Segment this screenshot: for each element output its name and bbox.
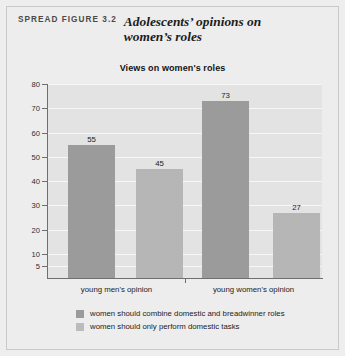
figure-title: Adolescents’ opinions on women’s roles bbox=[124, 14, 274, 44]
legend-item: women should only perform domestic tasks bbox=[76, 320, 285, 333]
y-tick-label-text: 30 bbox=[18, 201, 40, 210]
y-tick-mark bbox=[42, 133, 47, 134]
y-tick-label-text: 40 bbox=[18, 177, 40, 186]
bar-value-label: 73 bbox=[202, 91, 249, 100]
y-tick-mark bbox=[42, 254, 47, 255]
y-tick-mark bbox=[42, 84, 47, 85]
y-tick-mark bbox=[42, 108, 47, 109]
x-axis-group-divider bbox=[185, 278, 186, 283]
y-tick-label-text: 10 bbox=[18, 250, 40, 259]
x-axis-category-label: young women's opinion bbox=[185, 285, 322, 294]
chart-title: Views on women's roles bbox=[0, 63, 345, 73]
figure-root: SPREAD FIGURE 3.2 Adolescents’ opinions … bbox=[0, 0, 345, 356]
legend-item: women should combine domestic and breadw… bbox=[76, 307, 285, 320]
y-tick-label-text: 20 bbox=[18, 226, 40, 235]
y-tick-mark bbox=[42, 181, 47, 182]
legend-swatch-icon bbox=[76, 310, 84, 318]
y-tick-mark bbox=[42, 266, 47, 267]
y-tick-label-text: 80 bbox=[18, 80, 40, 89]
y-tick-label-text: 50 bbox=[18, 153, 40, 162]
gridline bbox=[48, 108, 322, 109]
y-tick-label-text: 70 bbox=[18, 104, 40, 113]
legend-label: women should only perform domestic tasks bbox=[90, 322, 240, 331]
gridline bbox=[48, 133, 322, 134]
bar-value-label: 55 bbox=[68, 135, 115, 144]
bar bbox=[273, 213, 320, 278]
bar bbox=[136, 169, 183, 278]
chart-legend: women should combine domestic and breadw… bbox=[76, 307, 285, 333]
y-axis-line bbox=[47, 84, 48, 279]
figure-kicker: SPREAD FIGURE 3.2 bbox=[18, 14, 117, 24]
gridline bbox=[48, 84, 322, 85]
plot-area: 55457327 bbox=[48, 84, 322, 278]
bar-value-label: 27 bbox=[273, 203, 320, 212]
bar-value-label: 45 bbox=[136, 159, 183, 168]
x-axis-category-label: young men's opinion bbox=[48, 285, 185, 294]
y-tick-label-text: 5 bbox=[18, 262, 40, 271]
legend-swatch-icon bbox=[76, 323, 84, 331]
bar bbox=[202, 101, 249, 278]
figure-header: SPREAD FIGURE 3.2 Adolescents’ opinions … bbox=[18, 14, 318, 44]
bar bbox=[68, 145, 115, 278]
legend-label: women should combine domestic and breadw… bbox=[90, 309, 285, 318]
y-tick-mark bbox=[42, 205, 47, 206]
y-tick-mark bbox=[42, 230, 47, 231]
y-tick-label-text: 60 bbox=[18, 129, 40, 138]
y-tick-mark bbox=[42, 157, 47, 158]
